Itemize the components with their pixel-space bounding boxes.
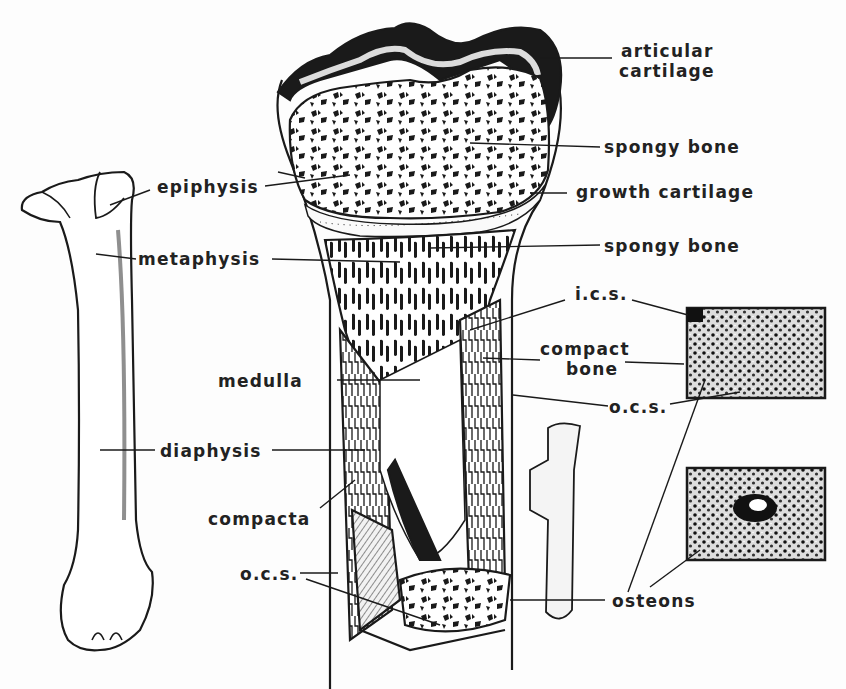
label-compact-bone-line1: compact bbox=[540, 340, 630, 358]
diagram-drawing bbox=[0, 0, 846, 689]
label-spongy-bone-mid: spongy bone bbox=[604, 237, 740, 255]
label-ocs-right: o.c.s. bbox=[609, 398, 667, 416]
label-epiphysis: epiphysis bbox=[157, 178, 259, 196]
osteon-inset bbox=[687, 468, 825, 560]
label-compacta: compacta bbox=[208, 510, 310, 528]
bone-diagram: articular cartilage spongy bone epiphysi… bbox=[0, 0, 846, 689]
sectioned-bone-view bbox=[278, 23, 581, 689]
label-growth-cartilage: growth cartilage bbox=[576, 183, 754, 201]
label-ics: i.c.s. bbox=[575, 285, 628, 303]
label-ocs-left: o.c.s. bbox=[240, 565, 298, 583]
label-osteons: osteons bbox=[612, 592, 696, 610]
compact-bone-inset bbox=[687, 308, 825, 398]
whole-bone-view bbox=[22, 172, 153, 650]
label-spongy-bone-top: spongy bone bbox=[604, 138, 740, 156]
label-metaphysis: metaphysis bbox=[138, 250, 260, 268]
label-diaphysis: diaphysis bbox=[160, 442, 262, 460]
label-compact-bone-line2: bone bbox=[566, 360, 618, 378]
label-articular-cartilage-line2: cartilage bbox=[619, 62, 715, 80]
label-medulla: medulla bbox=[218, 372, 303, 390]
label-articular-cartilage-line1: articular bbox=[621, 42, 713, 60]
